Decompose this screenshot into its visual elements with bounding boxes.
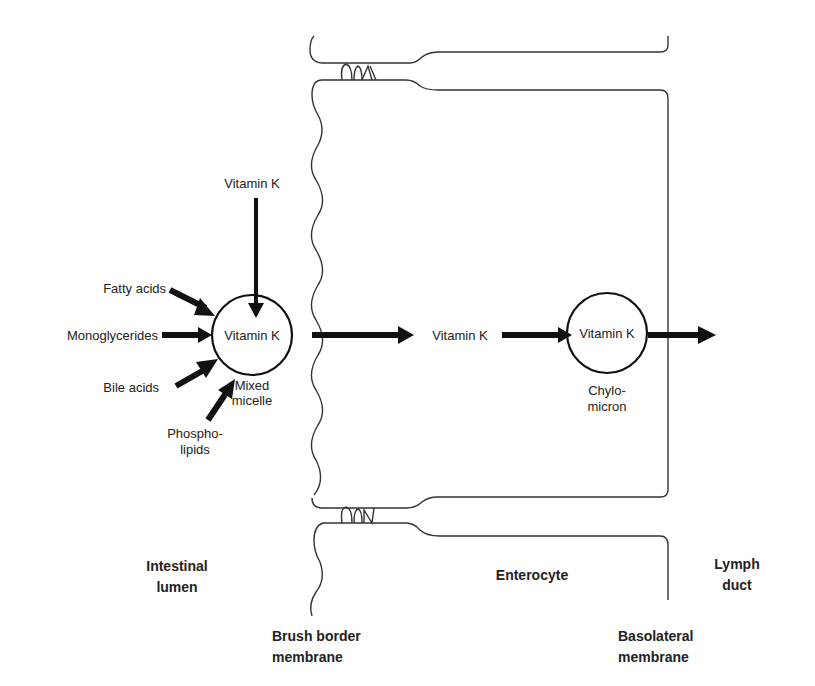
micelle-vitamin-k-label: Vitamin K: [224, 328, 280, 343]
basolateral-membrane-label-1: Basolateral: [618, 628, 693, 644]
lower-tight-junction: [342, 507, 375, 523]
brush-border-membrane-label-1: Brush border: [272, 628, 361, 644]
lymph-duct-label-1: Lymph: [714, 556, 759, 572]
chylomicron-to-lymph-arrow-icon: [648, 326, 716, 344]
monoglycerides-label: Monoglycerides: [67, 328, 159, 343]
brush-border-membrane-label-2: membrane: [272, 649, 343, 665]
chylomicron-vitamin-k-label: Vitamin K: [579, 326, 635, 341]
basolateral-membrane-label-2: membrane: [618, 649, 689, 665]
bile-acids-arrow-icon: [176, 359, 218, 386]
vitamin-k-absorption-diagram: Vitamin K Mixed micelle Vitamin K Fatty …: [0, 0, 815, 686]
chylomicron-label-2: micron: [587, 399, 626, 414]
monoglycerides-arrow-icon: [162, 327, 212, 343]
lower-cell-outline: [311, 523, 668, 616]
fatty-acids-arrow-icon: [170, 290, 215, 316]
lymph-duct-label-2: duct: [722, 577, 752, 593]
upper-cell-outline: [310, 36, 668, 63]
enterocyte-label: Enterocyte: [496, 567, 569, 583]
mixed-micelle-label-1: Mixed: [235, 378, 270, 393]
vitamin-k-to-chylomicron-arrow-icon: [502, 327, 572, 343]
chylomicron-label-1: Chylo-: [588, 383, 626, 398]
fatty-acids-label: Fatty acids: [103, 281, 166, 296]
phospholipids-label-2: lipids: [180, 442, 210, 457]
micelle-to-enterocyte-arrow-icon: [312, 326, 414, 344]
phospholipids-label-1: Phospho-: [167, 426, 223, 441]
upper-tight-junction: [342, 64, 377, 80]
enterocyte-vitamin-k-label: Vitamin K: [432, 328, 488, 343]
vitamin-k-down-arrow-icon: [248, 198, 264, 318]
bile-acids-label: Bile acids: [103, 380, 159, 395]
intestinal-lumen-label-1: Intestinal: [146, 558, 207, 574]
intestinal-lumen-label-2: lumen: [156, 579, 197, 595]
vitamin-k-input-label: Vitamin K: [224, 176, 280, 191]
mixed-micelle-label-2: micelle: [232, 393, 272, 408]
